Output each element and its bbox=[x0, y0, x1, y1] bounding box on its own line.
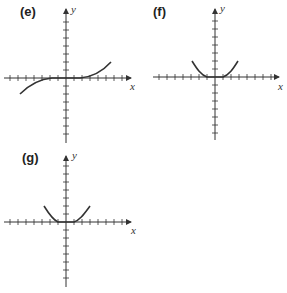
plot-g bbox=[4, 156, 131, 287]
plots-canvas bbox=[0, 0, 287, 293]
plot-f bbox=[153, 9, 279, 140]
plot-e bbox=[4, 9, 131, 143]
